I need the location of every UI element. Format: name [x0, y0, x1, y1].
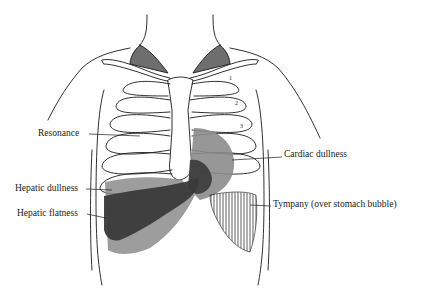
neck-right-outline	[213, 15, 220, 45]
neck-left-outline	[140, 15, 147, 45]
chest-illustration: 1 2 3	[0, 0, 425, 300]
left-outer-body	[91, 150, 93, 270]
label-tympany: Tympany (over stomach bubble)	[273, 200, 397, 210]
label-hepatic-flatness: Hepatic flatness	[17, 209, 78, 219]
tympany-region	[210, 192, 257, 252]
left-rib-1	[123, 81, 170, 96]
label-cardiac-dullness: Cardiac dullness	[284, 150, 347, 160]
label-resonance: Resonance	[38, 129, 79, 139]
left-rib-5	[102, 153, 172, 175]
chest-percussion-diagram: 1 2 3 Resonance Cardiac dullness Hepatic…	[0, 0, 425, 300]
leader-cardiac-dullness	[232, 157, 282, 160]
left-rib-4	[106, 133, 170, 154]
right-chest-wall	[256, 90, 264, 285]
rib-number-1: 1	[229, 75, 232, 81]
left-rib-3	[110, 115, 170, 133]
left-rib-2	[116, 97, 170, 113]
right-rib-1	[192, 81, 239, 96]
sternum	[168, 77, 193, 180]
rib-number-3: 3	[240, 123, 243, 129]
right-outer-body	[268, 150, 270, 270]
rib-number-2: 2	[235, 100, 238, 106]
label-hepatic-dullness: Hepatic dullness	[15, 184, 78, 194]
leader-resonance	[89, 134, 140, 136]
